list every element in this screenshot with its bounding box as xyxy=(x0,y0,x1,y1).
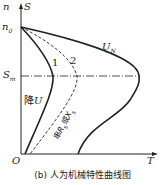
figure-caption: (b) 人为机械特性曲线图 xyxy=(0,168,165,181)
curve1-label: 1 xyxy=(52,58,58,68)
curve2-label: 2 xyxy=(70,56,76,66)
un-label: UN xyxy=(102,42,116,54)
sm-label: Sm xyxy=(3,70,16,82)
y-axis-arrow-icon xyxy=(19,3,23,9)
curve-reduced-voltage xyxy=(21,27,53,154)
origin-label: O xyxy=(12,156,20,166)
mechanical-characteristic-diagram: n S n0 Sm O T UN 1 2 降U 串Rs或Xs (b) 人为机械特… xyxy=(0,0,165,185)
diagram-canvas xyxy=(0,0,165,185)
curve-rated-voltage xyxy=(21,27,139,154)
axis-label-t: T xyxy=(147,156,154,166)
lower-u-label: 降U xyxy=(24,96,42,106)
axis-label-s: S xyxy=(24,2,31,12)
n0-label: n0 xyxy=(2,22,12,34)
axis-label-n: n xyxy=(3,2,9,12)
